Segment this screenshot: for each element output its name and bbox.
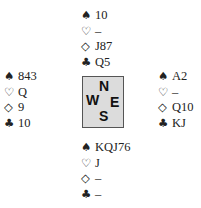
east-diamonds: ◇ Q10 — [158, 100, 194, 116]
east-clubs-cards: KJ — [172, 116, 186, 132]
club-icon: ♣ — [4, 116, 16, 132]
heart-icon: ♡ — [81, 24, 93, 40]
south-clubs-cards: – — [95, 187, 101, 203]
north-clubs-cards: Q5 — [95, 55, 110, 71]
compass-box: N W E S — [82, 76, 124, 128]
diamond-icon: ◇ — [81, 39, 93, 55]
south-clubs: ♣ – — [81, 187, 130, 203]
compass-west-label: W — [86, 92, 99, 108]
diamond-icon: ◇ — [4, 100, 16, 116]
south-spades-cards: KQJ76 — [95, 140, 130, 156]
east-hearts: ♡ – — [158, 85, 194, 101]
east-spades-cards: A2 — [172, 69, 187, 85]
west-hand: ♠ 843 ♡ Q ◇ 9 ♣ 10 — [4, 69, 37, 131]
spade-icon: ♠ — [81, 8, 93, 24]
east-clubs: ♣ KJ — [158, 116, 194, 132]
west-diamonds: ◇ 9 — [4, 100, 37, 116]
club-icon: ♣ — [81, 187, 93, 203]
north-hearts: ♡ – — [81, 24, 112, 40]
south-hearts-cards: J — [95, 156, 100, 172]
compass-south-label: S — [99, 108, 108, 124]
north-diamonds: ◇ J87 — [81, 39, 112, 55]
north-hand: ♠ 10 ♡ – ◇ J87 ♣ Q5 — [81, 8, 112, 70]
west-hearts: ♡ Q — [4, 85, 37, 101]
heart-icon: ♡ — [158, 85, 170, 101]
west-hearts-cards: Q — [18, 85, 27, 101]
spade-icon: ♠ — [4, 69, 16, 85]
east-spades: ♠ A2 — [158, 69, 194, 85]
diamond-icon: ◇ — [158, 100, 170, 116]
east-hand: ♠ A2 ♡ – ◇ Q10 ♣ KJ — [158, 69, 194, 131]
north-diamonds-cards: J87 — [95, 39, 112, 55]
west-diamonds-cards: 9 — [18, 100, 24, 116]
south-spades: ♠ KQJ76 — [81, 140, 130, 156]
north-clubs: ♣ Q5 — [81, 55, 112, 71]
heart-icon: ♡ — [4, 85, 16, 101]
north-spades-cards: 10 — [95, 8, 108, 24]
heart-icon: ♡ — [81, 156, 93, 172]
south-hand: ♠ KQJ76 ♡ J ◇ – ♣ – — [81, 140, 130, 202]
west-spades: ♠ 843 — [4, 69, 37, 85]
spade-icon: ♠ — [81, 140, 93, 156]
north-spades: ♠ 10 — [81, 8, 112, 24]
diamond-icon: ◇ — [81, 171, 93, 187]
compass-east-label: E — [110, 94, 119, 110]
west-spades-cards: 843 — [18, 69, 37, 85]
south-diamonds-cards: – — [95, 171, 101, 187]
south-hearts: ♡ J — [81, 156, 130, 172]
north-hearts-cards: – — [95, 24, 101, 40]
east-hearts-cards: – — [172, 85, 178, 101]
spade-icon: ♠ — [158, 69, 170, 85]
compass-north-label: N — [99, 78, 109, 94]
south-diamonds: ◇ – — [81, 171, 130, 187]
west-clubs: ♣ 10 — [4, 116, 37, 132]
west-clubs-cards: 10 — [18, 116, 31, 132]
club-icon: ♣ — [158, 116, 170, 132]
club-icon: ♣ — [81, 55, 93, 71]
east-diamonds-cards: Q10 — [172, 100, 194, 116]
